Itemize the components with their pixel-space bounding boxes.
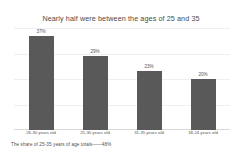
bar-value-label: 37% <box>36 30 45 35</box>
bar[interactable] <box>83 56 108 130</box>
bar-value-label: 29% <box>90 50 99 55</box>
bar-chart-figure: Nearly half were between the ages of 25 … <box>0 0 242 161</box>
x-axis-tick-label: 31-35 years old <box>122 131 176 135</box>
bar-value-label: 20% <box>198 73 207 78</box>
bar[interactable] <box>191 79 216 130</box>
x-axis-labels: 26-30 years old 25-30 years old 31-35 ye… <box>14 131 230 135</box>
x-axis-tick-label: 25-30 years old <box>68 131 122 135</box>
chart-footnote: The share of 25-35 years of age totals——… <box>11 142 111 147</box>
bar-group: 29% <box>68 28 122 130</box>
bar-group: 20% <box>176 28 230 130</box>
chart-title: Nearly half were between the ages of 25 … <box>0 14 242 23</box>
x-axis-tick-label: 26-30 years old <box>14 131 68 135</box>
bar-series: 37% 29% 23% 20% <box>14 28 230 130</box>
bar[interactable] <box>29 36 54 130</box>
x-axis-tick-label: 18-24 years old <box>176 131 230 135</box>
bar-group: 37% <box>14 28 68 130</box>
bar[interactable] <box>137 71 162 130</box>
bar-value-label: 23% <box>144 65 153 70</box>
bar-group: 23% <box>122 28 176 130</box>
plot-area: 37% 29% 23% 20% <box>14 28 230 130</box>
